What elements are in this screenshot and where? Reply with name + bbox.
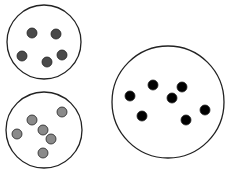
container-outline — [7, 5, 81, 79]
particle — [12, 129, 22, 139]
particle — [125, 91, 135, 101]
particle — [27, 28, 37, 38]
particle — [137, 111, 147, 121]
particle-diagram — [0, 0, 230, 176]
particle — [38, 125, 48, 135]
particle — [148, 80, 158, 90]
particle — [46, 134, 56, 144]
particle — [57, 50, 67, 60]
particle — [57, 107, 67, 117]
container-right — [112, 46, 224, 158]
container-outline — [112, 46, 224, 158]
particle — [38, 148, 48, 158]
container-top-left — [7, 5, 81, 79]
particle — [177, 82, 187, 92]
particle — [42, 57, 52, 67]
particle — [51, 29, 61, 39]
particle — [17, 51, 27, 61]
particle — [167, 93, 177, 103]
particle — [181, 115, 191, 125]
particle — [27, 115, 37, 125]
container-bottom-left — [6, 92, 82, 168]
particle — [200, 105, 210, 115]
